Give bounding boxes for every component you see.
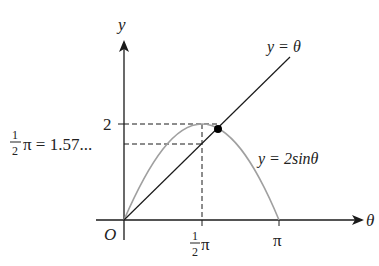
line-label: y = θ (265, 38, 301, 56)
origin-label: O (104, 225, 116, 244)
x-axis-label: θ (366, 211, 374, 230)
y-axis-label: y (116, 15, 126, 34)
x-tick-label-half-pi: 1 2 π (190, 229, 210, 259)
intersection-point (214, 125, 222, 133)
svg-text:2: 2 (12, 144, 18, 158)
svg-text:π = 1.57...: π = 1.57... (23, 135, 92, 154)
sine-label: y = 2sinθ (256, 150, 319, 168)
annotation-half-pi: 1 2 π = 1.57... (10, 128, 92, 158)
svg-text:1: 1 (192, 229, 198, 243)
graph: y θ O 2 1 2 π = 1.57... 1 2 π π y = θ y … (0, 0, 379, 266)
svg-text:π: π (201, 235, 210, 254)
y-tick-label-2: 2 (103, 115, 112, 134)
identity-line (124, 57, 290, 220)
svg-text:2: 2 (192, 245, 198, 259)
svg-text:1: 1 (12, 128, 18, 142)
x-tick-label-pi: π (273, 231, 282, 250)
